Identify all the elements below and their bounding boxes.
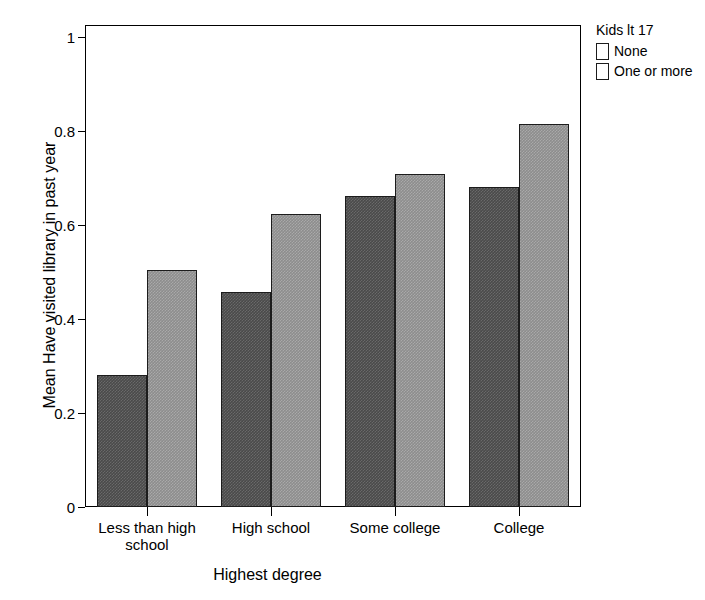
bar [469,187,519,507]
bar [97,375,147,507]
x-axis-title: Highest degree [0,566,705,584]
bar [395,174,445,507]
bar [271,214,321,507]
bar [519,124,569,507]
legend-label-none: None [614,44,647,59]
legend-swatch-icon-one-or-more [596,63,609,80]
x-axis-tick-mark [519,507,520,516]
bar [345,196,395,507]
chart-root: 00.20.40.60.81 Mean Have visited library… [0,0,705,600]
legend-title: Kids lt 17 [596,22,704,39]
legend-item-one-or-more[interactable]: One or more [596,63,704,81]
x-axis-tick-mark [395,507,396,516]
x-axis-tick-label: College [444,520,594,537]
x-axis: Less than high schoolHigh schoolSome col… [0,507,705,567]
bar [221,292,271,507]
legend-swatch-icon-none [596,43,609,60]
x-axis-tick-mark [147,507,148,516]
bar [147,270,197,507]
legend-item-none[interactable]: None [596,43,704,61]
x-axis-tick-mark [271,507,272,516]
x-axis-title-text: Highest degree [213,566,322,584]
legend-label-one-or-more: One or more [614,64,693,79]
legend: Kids lt 17 None One or more [596,22,704,83]
